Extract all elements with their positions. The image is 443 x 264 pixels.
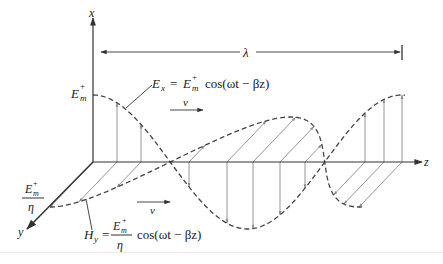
h-field-vector [253, 117, 296, 162]
svg-text:η: η [117, 238, 123, 252]
plane-wave-diagram: x z y λ E m + E x = E m + cos(ωt − βz) v… [0, 0, 443, 264]
svg-text:x: x [160, 83, 165, 93]
y-axis-label: y [17, 225, 24, 239]
svg-text:+: + [122, 216, 127, 225]
svg-text:=: = [170, 76, 177, 91]
h-equation-leader [86, 199, 92, 230]
h-field-vector [280, 127, 314, 163]
h-field-vector [189, 145, 205, 162]
svg-text:+: + [80, 81, 85, 91]
h-field-vector [117, 162, 141, 187]
svg-text:+: + [192, 72, 197, 82]
wavelength-label: λ [242, 45, 249, 60]
h-field-vector [227, 121, 266, 162]
svg-text:m: m [33, 189, 39, 198]
e-equation-leader [126, 85, 152, 108]
svg-text:y: y [93, 234, 98, 244]
x-axis-label: x [88, 6, 95, 20]
svg-text:E: E [151, 76, 160, 91]
svg-text:H: H [83, 227, 94, 242]
svg-text:E: E [182, 76, 191, 91]
h-field-vector [305, 144, 322, 162]
h-velocity-label: v [150, 204, 155, 216]
svg-text:m: m [192, 83, 199, 93]
bottom-divider [0, 252, 443, 253]
e-velocity-label: v [183, 96, 188, 108]
svg-text:E: E [24, 182, 33, 196]
e-field-equation: E x = E m + cos(ωt − βz) [151, 72, 269, 93]
svg-text:m: m [121, 226, 127, 235]
svg-text:E: E [112, 219, 121, 233]
svg-text:=: = [102, 227, 109, 242]
h-field-vector [334, 162, 365, 195]
z-axis-label: z [423, 155, 429, 169]
e-amplitude-label: E m + [70, 81, 87, 103]
svg-text:η: η [28, 200, 34, 214]
h-field-vector [344, 162, 384, 204]
svg-text:E: E [70, 86, 79, 101]
svg-text:m: m [80, 93, 87, 103]
h-field-equation: H y = E m + η cos(ωt − βz) [83, 216, 201, 252]
svg-text:+: + [33, 179, 38, 188]
svg-text:cos(ωt − βz): cos(ωt − βz) [205, 76, 269, 91]
svg-text:cos(ωt − βz): cos(ωt − βz) [137, 227, 201, 242]
h-amplitude-label: E m + η [22, 179, 44, 214]
h-field-vector [359, 162, 402, 207]
